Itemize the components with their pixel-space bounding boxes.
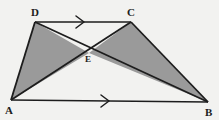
vertex-label-A: A	[5, 105, 13, 116]
geometry-figure: D C E A B	[0, 0, 219, 120]
vertex-label-C: C	[127, 7, 135, 18]
figure-canvas	[0, 0, 219, 120]
vertex-label-E: E	[85, 55, 91, 64]
vertex-label-D: D	[31, 7, 39, 18]
vertex-label-B: B	[205, 107, 212, 118]
